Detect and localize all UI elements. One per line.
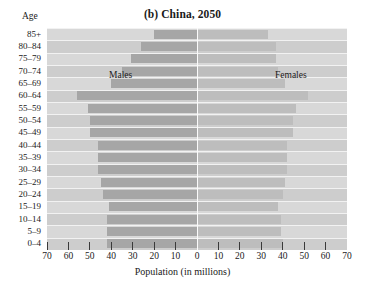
bar-female (197, 165, 287, 174)
bar-male (98, 165, 197, 174)
x-tick-mark (347, 242, 348, 250)
x-tick-label: 60 (57, 251, 79, 261)
bar-male (90, 128, 197, 137)
bar-male (131, 54, 197, 63)
x-axis-tick-labels: 70605040302010010203040506070 (0, 251, 365, 265)
bar-female (197, 30, 268, 39)
y-tick-label: 60–64 (19, 90, 42, 100)
y-tick-label: 15–19 (19, 201, 42, 211)
x-tick-mark (239, 242, 240, 250)
y-axis-title: Age (22, 11, 38, 21)
bar-male (103, 190, 197, 199)
bar-male (109, 202, 197, 211)
bar-female (197, 202, 278, 211)
bar-female (197, 128, 293, 137)
bar-male (98, 153, 197, 162)
y-tick-label: 20–24 (19, 189, 42, 199)
bar-female (197, 141, 287, 150)
x-tick-label: 30 (250, 251, 272, 261)
y-tick-label: 70–74 (19, 66, 42, 76)
bar-male (98, 141, 197, 150)
bar-female (197, 91, 308, 100)
bar-male (154, 30, 197, 39)
y-tick-label: 45–49 (19, 127, 42, 137)
x-tick-label: 70 (36, 251, 58, 261)
bar-female (197, 190, 283, 199)
x-tick-label: 30 (122, 251, 144, 261)
bar-female (197, 104, 296, 113)
x-tick-mark (304, 242, 305, 250)
bar-female (197, 79, 285, 88)
series-label-males: Males (109, 70, 132, 80)
bar-female (197, 42, 276, 51)
x-tick-mark (89, 242, 90, 250)
x-tick-label: 10 (207, 251, 229, 261)
bar-male (107, 239, 197, 248)
bar-male (122, 67, 197, 76)
x-axis-title: Population (in millions) (0, 266, 365, 277)
chart-title: (b) China, 2050 (0, 8, 365, 20)
y-tick-label: 5–9 (28, 226, 42, 236)
bar-female (197, 178, 285, 187)
x-tick-label: 10 (165, 251, 187, 261)
bar-female (197, 54, 276, 63)
bar-male (107, 227, 197, 236)
x-tick-mark (175, 242, 176, 250)
y-tick-label: 75–79 (19, 53, 42, 63)
y-tick-label: 65–69 (19, 78, 42, 88)
bar-female (197, 67, 278, 76)
x-tick-label: 0 (186, 251, 208, 261)
y-tick-label: 35–39 (19, 152, 42, 162)
y-tick-label: 0–4 (28, 238, 42, 248)
y-tick-label: 55–59 (19, 103, 42, 113)
x-tick-mark (132, 242, 133, 250)
x-tick-label: 50 (79, 251, 101, 261)
bar-male (111, 79, 197, 88)
x-tick-mark (154, 242, 155, 250)
x-tick-mark (47, 242, 48, 250)
x-tick-mark (325, 242, 326, 250)
x-tick-label: 40 (100, 251, 122, 261)
bar-male (88, 104, 197, 113)
x-tick-mark (282, 242, 283, 250)
x-tick-mark (68, 242, 69, 250)
bar-male (77, 91, 197, 100)
y-tick-label: 30–34 (19, 164, 42, 174)
bar-female (197, 116, 293, 125)
x-tick-label: 20 (229, 251, 251, 261)
bar-female (197, 215, 281, 224)
y-tick-label: 50–54 (19, 115, 42, 125)
bar-male (101, 178, 197, 187)
y-tick-label: 85+ (27, 29, 41, 39)
bar-female (197, 227, 281, 236)
zero-axis-line (197, 28, 198, 250)
y-tick-label: 80–84 (19, 41, 42, 51)
series-label-females: Females (275, 70, 307, 80)
x-tick-label: 40 (272, 251, 294, 261)
x-tick-label: 70 (336, 251, 358, 261)
y-axis-tick-labels: 85+80–8475–7970–7465–6960–6455–5950–5445… (0, 28, 44, 250)
y-tick-label: 25–29 (19, 177, 42, 187)
x-tick-mark (261, 242, 262, 250)
x-tick-label: 50 (293, 251, 315, 261)
x-tick-label: 20 (143, 251, 165, 261)
x-tick-label: 60 (315, 251, 337, 261)
bar-male (90, 116, 197, 125)
plot-area: Males Females (47, 28, 347, 250)
x-tick-mark (111, 242, 112, 250)
population-pyramid-figure: (b) China, 2050 Age 85+80–8475–7970–7465… (0, 0, 365, 285)
bar-male (107, 215, 197, 224)
y-tick-label: 40–44 (19, 140, 42, 150)
bar-male (141, 42, 197, 51)
x-tick-mark (218, 242, 219, 250)
y-tick-label: 10–14 (19, 214, 42, 224)
bar-female (197, 153, 287, 162)
